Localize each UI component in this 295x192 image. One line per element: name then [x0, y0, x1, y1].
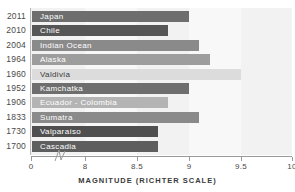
axis-break-icon [52, 149, 66, 161]
bar-row[interactable]: 1906Ecuador - Colombia [0, 97, 295, 108]
bar-label: Kamchatka [40, 83, 83, 94]
bar-year-label: 1730 [0, 126, 26, 137]
bar-label: Indian Ocean [40, 40, 92, 51]
bar-row[interactable]: 1960Valdivia [0, 69, 295, 80]
bar-row[interactable]: 1964Alaska [0, 54, 295, 65]
bar-year-label: 1952 [0, 83, 26, 94]
bar-row[interactable]: 1952Kamchatka [0, 83, 295, 94]
x-tick-label-8-5: 8.5 [131, 162, 143, 171]
bar-label: Valparaíso [40, 126, 81, 137]
magnitude-bar-chart: 2011Japan2010Chile2004Indian Ocean1964Al… [0, 0, 295, 192]
x-tick-label-9: 9 [187, 162, 192, 171]
x-tick-9-5 [241, 157, 242, 161]
x-axis-title: MAGNITUDE (RICHTER SCALE) [0, 176, 295, 185]
x-tick-10 [292, 157, 293, 161]
x-axis-line [31, 156, 292, 157]
x-tick-0 [31, 157, 32, 161]
bar-row[interactable]: 1833Sumatra [0, 112, 295, 123]
x-tick-8 [85, 157, 86, 161]
bar-row[interactable]: 2004Indian Ocean [0, 40, 295, 51]
bar-label: Valdivia [40, 69, 70, 80]
bar-row[interactable]: 1700Cascadia [0, 141, 295, 152]
x-tick-9 [189, 157, 190, 161]
bar-year-label: 1964 [0, 54, 26, 65]
x-tick-8-5 [137, 157, 138, 161]
bar-label: Ecuador - Colombia [40, 97, 117, 108]
x-tick-label-8: 8 [83, 162, 88, 171]
bar-year-label: 1906 [0, 97, 26, 108]
bar-year-label: 2010 [0, 25, 26, 36]
bar-label: Chile [40, 25, 60, 36]
bar-year-label: 2011 [0, 11, 26, 22]
bar-label: Alaska [40, 54, 66, 65]
x-tick-label-0: 0 [29, 162, 34, 171]
bar-label: Sumatra [40, 112, 73, 123]
x-tick-label-10: 10 [287, 162, 295, 171]
bar-year-label: 2004 [0, 40, 26, 51]
bar-year-label: 1700 [0, 141, 26, 152]
bar-row[interactable]: 1730Valparaíso [0, 126, 295, 137]
bar-year-label: 1960 [0, 69, 26, 80]
bar-row[interactable]: 2010Chile [0, 25, 295, 36]
bar-row[interactable]: 2011Japan [0, 11, 295, 22]
bar-label: Japan [40, 11, 64, 22]
x-tick-label-9-5: 9.5 [235, 162, 247, 171]
bar-year-label: 1833 [0, 112, 26, 123]
